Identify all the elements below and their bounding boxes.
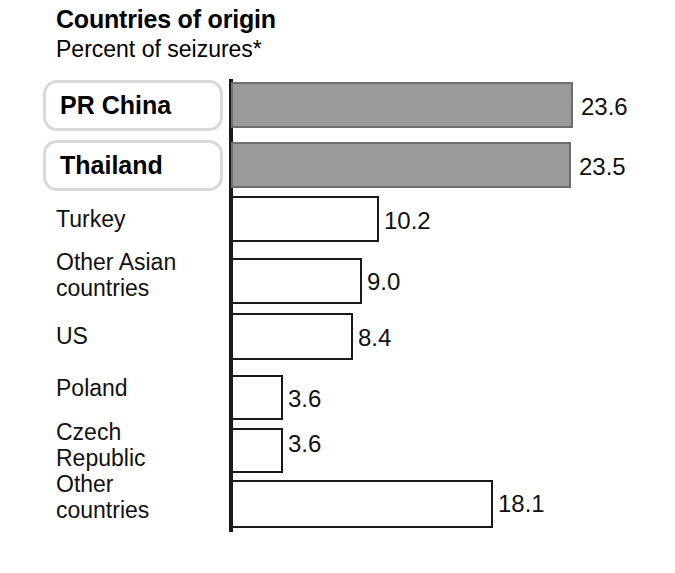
bar xyxy=(231,142,571,188)
bar xyxy=(231,480,493,528)
bar xyxy=(231,258,362,304)
bar-value-label: 18.1 xyxy=(498,490,545,518)
category-label: PR China xyxy=(46,91,171,120)
bar-value-label: 23.6 xyxy=(581,93,628,121)
category-label-box: PR China xyxy=(43,80,223,131)
category-label: Turkey xyxy=(56,206,125,232)
category-label: US xyxy=(56,323,88,349)
category-label: Other Asian countries xyxy=(56,249,176,301)
bar-value-label: 3.6 xyxy=(288,385,321,413)
plot-area: PR China23.6Thailand23.5Turkey10.2Other … xyxy=(0,0,675,573)
bar xyxy=(231,375,283,420)
bar-value-label: 10.2 xyxy=(384,207,431,235)
bar-value-label: 3.6 xyxy=(288,430,321,458)
category-label: Thailand xyxy=(46,151,163,180)
chart-figure: Countries of origin Percent of seizures*… xyxy=(0,0,675,573)
category-label: Poland xyxy=(56,375,128,401)
bar-value-label: 8.4 xyxy=(358,324,391,352)
bar-value-label: 23.5 xyxy=(579,153,626,181)
bar xyxy=(231,196,379,242)
bar xyxy=(231,428,283,473)
bar xyxy=(231,313,353,360)
category-label: Other countries xyxy=(56,471,149,523)
category-label: Czech Republic xyxy=(56,419,146,471)
bar-value-label: 9.0 xyxy=(367,268,400,296)
bar xyxy=(231,82,573,128)
category-label-box: Thailand xyxy=(43,140,223,191)
